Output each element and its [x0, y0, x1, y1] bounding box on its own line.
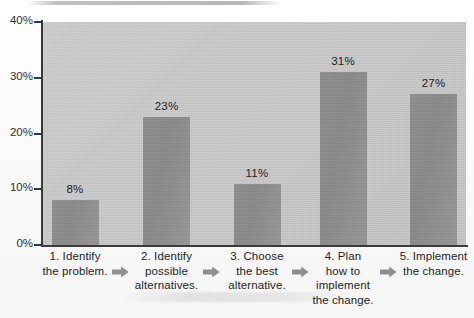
bar-texture [234, 184, 281, 245]
category-label-line: the change. [295, 293, 391, 308]
y-tick-20% [34, 133, 43, 135]
category-label-line: the problem. [27, 264, 123, 279]
category-label-line: implement [295, 278, 391, 293]
category-label-line: the change. [386, 264, 474, 279]
category-label-5: 5. Implementthe change. [386, 249, 474, 278]
category-label-2: 2. Identifypossiblealternatives. [119, 249, 215, 293]
value-label-2: 23% [141, 100, 193, 112]
category-label-line: 5. Implement [386, 249, 474, 264]
category-label-line: how to [295, 264, 391, 279]
value-label-1: 8% [49, 183, 101, 195]
category-label-4: 4. Planhow toimplementthe change. [295, 249, 391, 307]
y-tick-0% [34, 244, 43, 246]
y-tick-label-20%: 20% [0, 126, 33, 138]
bar-3 [234, 184, 281, 245]
value-label-4: 31% [317, 55, 369, 67]
category-label-line: possible [119, 264, 215, 279]
y-tick-40% [34, 21, 43, 23]
y-tick-30% [34, 77, 43, 79]
category-label-line: alternative. [209, 278, 305, 293]
bar-texture [410, 94, 457, 245]
y-tick-label-10%: 10% [0, 181, 33, 193]
category-label-1: 1. Identifythe problem. [27, 249, 123, 278]
bar-2 [143, 117, 190, 245]
category-label-line: 1. Identify [27, 249, 123, 264]
category-label-line: 2. Identify [119, 249, 215, 264]
scan-artifact-top-streak [26, 1, 281, 5]
value-label-5: 27% [408, 77, 460, 89]
category-label-line: 3. Choose [209, 249, 305, 264]
x-axis-category-labels: 1. Identifythe problem.2. Identifypossib… [42, 249, 474, 318]
value-label-3: 11% [231, 167, 283, 179]
category-label-line: alternatives. [119, 278, 215, 293]
bar-texture [52, 200, 99, 245]
y-tick-10% [34, 188, 43, 190]
right-arrow-icon [380, 266, 397, 278]
bar-texture [320, 72, 367, 245]
bar-1 [52, 200, 99, 245]
right-arrow-icon [292, 266, 309, 278]
y-tick-label-30%: 30% [0, 70, 33, 82]
right-arrow-icon [112, 266, 129, 278]
y-tick-label-40%: 40% [0, 14, 33, 26]
bar-5 [410, 94, 457, 245]
x-axis-line [41, 245, 468, 247]
y-tick-label-0%: 0% [0, 237, 33, 249]
bar-4 [320, 72, 367, 245]
category-label-line: 4. Plan [295, 249, 391, 264]
plot-area [42, 22, 466, 245]
bar-texture [143, 117, 190, 245]
right-arrow-icon [203, 266, 220, 278]
